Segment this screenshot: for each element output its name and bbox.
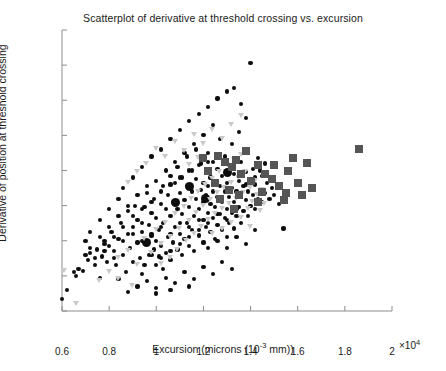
x-axis-label-suffix: mm))	[266, 343, 293, 355]
data-point-circle	[126, 290, 130, 294]
data-point-square	[225, 186, 233, 194]
data-point-triangle-down	[115, 276, 121, 281]
data-point-triangle-down	[261, 201, 267, 206]
x-tick-label: 1.6	[291, 346, 305, 357]
x-tick-label: 1.2	[196, 346, 210, 357]
data-point-circle	[185, 182, 194, 191]
data-point-circle	[232, 226, 236, 230]
data-point-circle	[197, 233, 201, 237]
data-point-circle	[60, 297, 64, 301]
data-point-circle	[201, 240, 205, 244]
data-point-circle	[135, 240, 139, 244]
data-point-triangle-down	[209, 231, 215, 236]
data-point-circle	[81, 269, 85, 273]
data-point-circle	[225, 246, 229, 250]
data-point-triangle-down	[238, 215, 244, 220]
data-point-circle	[215, 96, 219, 100]
x-tick-label: 1	[154, 346, 160, 357]
data-point-circle	[164, 276, 168, 280]
data-point-circle	[171, 198, 180, 207]
data-point-square	[242, 147, 250, 155]
data-point-circle	[187, 284, 191, 288]
data-point-square	[270, 161, 278, 169]
data-point-circle	[154, 291, 158, 295]
data-point-triangle-down	[191, 132, 197, 137]
data-point-circle	[76, 267, 80, 271]
data-point-triangle-down	[202, 182, 208, 187]
data-point-circle	[206, 246, 210, 250]
data-point-circle	[267, 197, 271, 201]
data-point-square	[199, 154, 207, 162]
data-point-triangle-down	[115, 255, 121, 260]
x-axis-multiplier-base: ×10	[399, 340, 416, 351]
data-point-triangle-down	[143, 161, 149, 166]
data-point-triangle-down	[207, 197, 213, 202]
plot-area: 0.060.080.100.120.140.160.180.200.220.60…	[62, 30, 392, 311]
data-point-circle	[281, 226, 285, 230]
data-point-circle	[168, 288, 172, 292]
data-point-circle	[244, 116, 248, 120]
data-point-circle	[270, 186, 274, 190]
data-point-circle	[83, 253, 87, 257]
data-point-triangle-down	[148, 250, 154, 255]
data-point-triangle-down	[172, 139, 178, 144]
data-point-triangle-down	[188, 196, 194, 201]
data-point-square	[289, 154, 297, 162]
data-point-square	[232, 156, 240, 164]
data-point-triangle-down	[172, 211, 178, 216]
data-point-triangle-down	[238, 113, 244, 118]
data-point-circle	[126, 209, 130, 213]
data-point-square	[254, 161, 262, 169]
data-point-circle	[100, 254, 104, 258]
data-point-circle	[131, 225, 135, 229]
data-point-circle	[201, 265, 205, 269]
data-point-triangle-down	[153, 227, 159, 232]
data-point-triangle-down	[191, 231, 197, 236]
data-point-circle	[135, 218, 139, 222]
data-point-triangle-down	[212, 211, 218, 216]
data-point-circle	[237, 130, 241, 134]
y-axis-label: Derivative of position at threshold cros…	[0, 0, 8, 371]
page-title: Scatterplot of derivative at threshold c…	[0, 12, 446, 24]
data-point-square	[211, 179, 219, 187]
data-point-circle	[131, 175, 135, 179]
data-point-circle	[159, 202, 163, 206]
data-point-triangle-down	[186, 218, 192, 223]
data-point-circle	[168, 249, 172, 253]
data-point-triangle-down	[134, 262, 140, 267]
data-point-square	[284, 167, 292, 175]
data-point-triangle-down	[174, 247, 180, 252]
data-point-circle	[215, 239, 219, 243]
data-point-square	[355, 145, 363, 153]
data-point-circle	[175, 165, 179, 169]
x-tick-label: 2	[389, 346, 395, 357]
data-point-triangle-down	[195, 189, 201, 194]
data-point-triangle-down	[73, 301, 79, 306]
data-point-circle	[171, 240, 175, 244]
data-point-circle	[105, 260, 109, 264]
data-point-circle	[239, 102, 243, 106]
data-point-square	[216, 195, 224, 203]
data-point-square	[204, 167, 212, 175]
data-point-circle	[102, 242, 106, 246]
x-tick-label: 0.6	[55, 346, 69, 357]
data-point-circle	[197, 218, 201, 222]
data-point-circle	[164, 207, 168, 211]
data-point-circle	[168, 174, 172, 178]
data-point-triangle-down	[181, 204, 187, 209]
x-tick-label: 0.8	[102, 346, 116, 357]
data-point-triangle-down	[158, 241, 164, 246]
data-point-circle	[256, 156, 260, 160]
data-point-square	[230, 205, 238, 213]
data-point-square	[258, 188, 266, 196]
data-point-triangle-down	[183, 238, 189, 243]
data-point-circle	[234, 235, 238, 239]
data-point-triangle-down	[209, 127, 215, 132]
data-point-circle	[149, 154, 153, 158]
data-point-triangle-down	[158, 261, 164, 266]
data-point-triangle-down	[61, 268, 67, 273]
data-point-circle	[135, 284, 139, 288]
data-point-triangle-down	[200, 203, 206, 208]
data-point-square	[294, 179, 302, 187]
data-point-square	[303, 159, 311, 167]
